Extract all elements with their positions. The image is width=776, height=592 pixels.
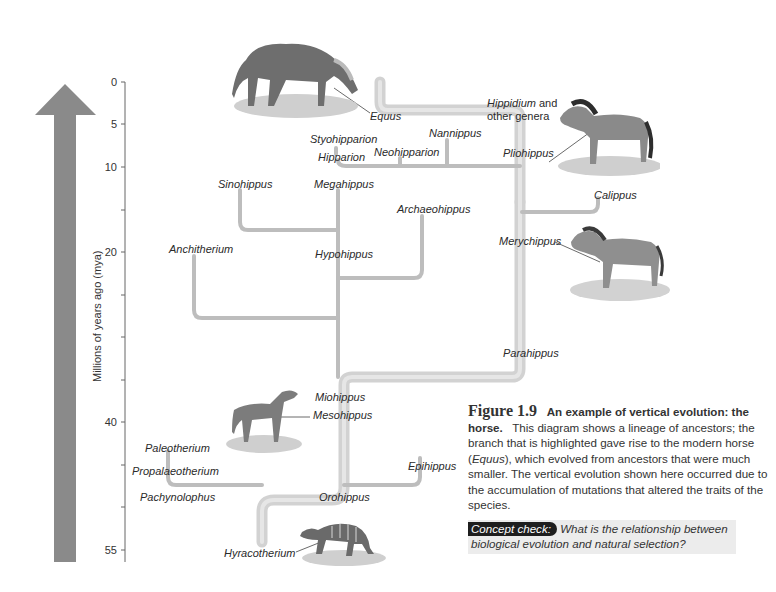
taxon-hipparion: Hipparion — [318, 151, 365, 163]
taxon-styohipparion: Styohipparion — [310, 133, 377, 145]
concept-check-tag: Concept check: — [468, 522, 557, 536]
taxon-mesohippus: Mesohippus — [313, 409, 372, 421]
hyracotherium-illustration — [296, 518, 386, 568]
taxon-other-genera: other genera — [487, 110, 549, 122]
concept-check: Concept check: What is the relationship … — [468, 520, 736, 554]
taxon-pliohippus: Pliohippus — [503, 147, 554, 159]
taxon-neohipparion: Neohipparion — [374, 146, 439, 158]
taxon-pachynolophus: Pachynolophus — [140, 491, 215, 503]
taxon-propalaeotherium: Propalaeotherium — [132, 465, 219, 477]
figure-caption: Figure 1.9 An example of vertical evolut… — [468, 403, 768, 513]
hippidium-name: Hippidium — [487, 97, 536, 109]
taxon-paleotherium: Paleotherium — [145, 442, 210, 454]
taxon-hyracotherium: Hyracotherium — [224, 547, 296, 559]
merychippus-horse-illustration — [565, 220, 675, 305]
pliohippus-horse-illustration — [550, 88, 660, 180]
taxon-merychippus: Merychippus — [499, 235, 561, 247]
taxon-anchitherium: Anchitherium — [169, 243, 233, 255]
taxon-calippus: Calippus — [594, 189, 637, 201]
taxon-miohippus: Miohippus — [315, 391, 365, 403]
caption-body-italic: Equus — [472, 452, 505, 465]
taxon-equus: Equus — [370, 110, 401, 122]
taxon-sinohippus: Sinohippus — [218, 178, 272, 190]
taxon-hypohippus: Hypohippus — [315, 248, 373, 260]
taxon-hippidium: Hippidium and — [487, 97, 557, 109]
caption-body-2: ), which evolved from ancestors that wer… — [468, 452, 767, 512]
hippidium-suffix: and — [536, 97, 557, 109]
taxon-nannippus: Nannippus — [429, 127, 482, 139]
mesohippus-horse-illustration — [222, 384, 302, 456]
taxon-parahippus: Parahippus — [503, 347, 559, 359]
taxon-epihippus: Epihippus — [408, 460, 456, 472]
equus-horse-illustration — [226, 20, 366, 120]
taxon-megahippus: Megahippus — [314, 178, 374, 190]
taxon-archaeohippus: Archaeohippus — [397, 203, 470, 215]
taxon-orohippus: Orohippus — [319, 491, 370, 503]
figure-number: Figure 1.9 — [468, 402, 537, 419]
